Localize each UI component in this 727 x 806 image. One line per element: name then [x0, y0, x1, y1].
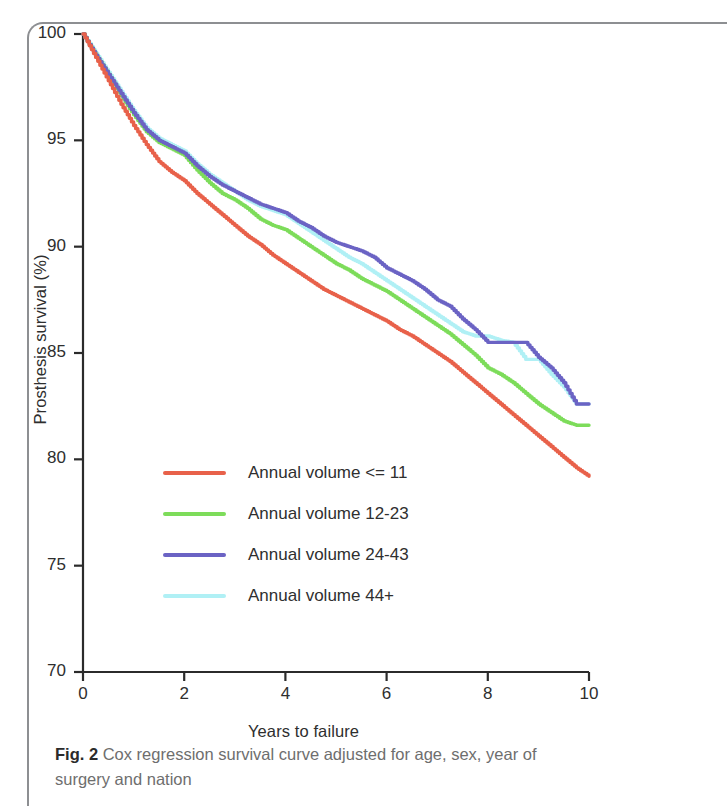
- legend-item: Annual volume 44+: [163, 575, 409, 616]
- legend-color-swatch: [163, 594, 226, 598]
- figure-caption-label: Fig. 2: [55, 745, 98, 763]
- series-line: [83, 34, 589, 404]
- y-tick-label: 70: [26, 661, 66, 681]
- figure-caption-text: Cox regression survival curve adjusted f…: [55, 745, 536, 788]
- legend-item: Annual volume 12-23: [163, 493, 409, 534]
- chart-legend: Annual volume <= 11Annual volume 12-23An…: [163, 452, 409, 616]
- legend-color-swatch: [163, 512, 226, 516]
- y-tick-label: 95: [26, 129, 66, 149]
- y-tick-label: 85: [26, 342, 66, 362]
- panel-border-left-lower: [27, 700, 29, 806]
- y-axis-title: Prosthesis survival (%): [31, 230, 50, 450]
- legend-label: Annual volume <= 11: [248, 463, 407, 483]
- survival-chart: Prosthesis survival (%) Years to failure…: [0, 0, 616, 700]
- legend-label: Annual volume 24-43: [248, 545, 409, 565]
- series-line: [83, 34, 589, 404]
- legend-item: Annual volume 24-43: [163, 534, 409, 575]
- legend-item: Annual volume <= 11: [163, 452, 409, 493]
- y-tick-label: 75: [26, 555, 66, 575]
- x-tick-label: 10: [574, 684, 604, 704]
- y-tick-label: 100: [26, 23, 66, 43]
- series-line: [83, 34, 589, 476]
- legend-color-swatch: [163, 553, 226, 557]
- legend-color-swatch: [163, 471, 226, 475]
- x-tick-label: 6: [372, 684, 402, 704]
- x-tick-label: 0: [68, 684, 98, 704]
- series-lines: [83, 34, 589, 476]
- legend-label: Annual volume 12-23: [248, 504, 409, 524]
- series-line: [83, 34, 589, 425]
- x-tick-label: 8: [473, 684, 503, 704]
- legend-label: Annual volume 44+: [248, 586, 394, 606]
- x-tick-label: 2: [169, 684, 199, 704]
- figure-caption: Fig. 2 Cox regression survival curve adj…: [55, 742, 585, 792]
- y-tick-label: 80: [26, 448, 66, 468]
- x-axis-title: Years to failure: [248, 722, 359, 741]
- x-tick-label: 4: [270, 684, 300, 704]
- y-tick-label: 90: [26, 236, 66, 256]
